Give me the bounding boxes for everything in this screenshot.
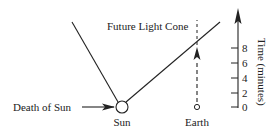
future-light-cone-label: Future Light Cone (107, 20, 188, 32)
earth-worldline-arrowhead (194, 47, 201, 60)
time-axis-label: Time (minutes) (255, 38, 268, 106)
tick-label-8: 8 (242, 42, 248, 54)
tick-label-4: 4 (242, 72, 248, 84)
earth-circle (194, 104, 199, 109)
sun-circle (116, 101, 128, 113)
tick-label-2: 2 (242, 87, 248, 99)
light-cone-left-edge (72, 22, 118, 102)
light-cone-right-edge (126, 22, 220, 102)
time-axis-ticks (231, 48, 238, 107)
earth-label: Earth (185, 116, 209, 128)
light-cone-diagram: Sun Earth Future Light Cone Death of Sun… (0, 0, 278, 134)
tick-label-0: 0 (242, 101, 248, 113)
tick-label-6: 6 (242, 57, 248, 69)
sun-label: Sun (113, 116, 131, 128)
death-of-sun-label: Death of Sun (13, 101, 72, 113)
